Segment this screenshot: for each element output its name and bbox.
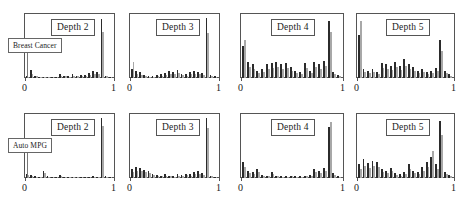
- bar: [285, 63, 287, 78]
- bar: [77, 177, 79, 178]
- bar: [206, 118, 208, 178]
- bar: [325, 66, 327, 78]
- bar: [201, 73, 203, 78]
- bar: [86, 177, 88, 178]
- bar: [430, 157, 432, 178]
- bar: [369, 168, 371, 178]
- bar: [367, 71, 369, 78]
- bar: [360, 21, 362, 78]
- bar: [394, 62, 396, 78]
- bar: [247, 62, 249, 78]
- depth-label-box: Depth 4: [271, 19, 315, 36]
- bar: [65, 76, 67, 78]
- bar: [90, 75, 92, 78]
- bar: [94, 177, 96, 178]
- bar: [59, 74, 61, 78]
- bar: [149, 173, 151, 178]
- bar: [32, 176, 34, 178]
- bar: [387, 69, 389, 78]
- bar: [437, 71, 439, 78]
- bar: [363, 69, 365, 78]
- bar: [36, 76, 38, 78]
- bar: [339, 76, 341, 78]
- bar: [382, 68, 384, 78]
- bar: [32, 74, 34, 78]
- bar: [405, 66, 407, 78]
- x-tick-label: 0: [354, 83, 359, 93]
- bar: [174, 177, 176, 178]
- x-tick-mark: [357, 78, 358, 81]
- bar: [360, 169, 362, 178]
- bar: [332, 72, 334, 78]
- bar: [410, 169, 412, 178]
- bar: [166, 75, 168, 78]
- bar: [110, 177, 112, 178]
- bar: [133, 172, 135, 178]
- bar: [277, 176, 279, 178]
- bar: [157, 176, 159, 178]
- bar: [177, 70, 179, 78]
- bar: [385, 64, 387, 78]
- bar: [135, 71, 137, 78]
- x-tick-mark: [357, 178, 358, 181]
- bar: [282, 69, 284, 78]
- bar: [160, 176, 162, 178]
- bar: [271, 172, 273, 178]
- bar: [364, 72, 366, 78]
- bar: [247, 171, 249, 178]
- bar: [36, 177, 38, 178]
- bar: [378, 167, 380, 178]
- bar: [290, 176, 292, 178]
- figure-panel-grid: Depth 201Depth 301Depth 401Depth 501Dept…: [0, 0, 466, 197]
- bar: [131, 69, 133, 78]
- bar: [373, 72, 375, 78]
- bar: [105, 176, 107, 178]
- histogram-panel-depth-5-row0: Depth 5: [356, 13, 455, 78]
- bar: [137, 74, 139, 78]
- bar: [334, 74, 336, 78]
- bar: [275, 62, 277, 78]
- bar: [275, 176, 277, 178]
- histogram-panel-depth-3-row1: Depth 3: [129, 113, 220, 178]
- x-tick-mark: [219, 178, 220, 181]
- depth-label-box: Depth 3: [156, 19, 200, 36]
- bar: [272, 68, 274, 78]
- bar: [63, 177, 65, 178]
- bar: [153, 77, 155, 78]
- bar: [444, 172, 446, 178]
- bar: [419, 174, 421, 178]
- bar: [193, 71, 195, 78]
- bar: [320, 69, 322, 78]
- bar: [34, 176, 36, 178]
- bar: [417, 172, 419, 178]
- bar: [141, 171, 143, 178]
- bar: [290, 67, 292, 78]
- bar: [412, 67, 414, 78]
- x-tick-mark: [25, 178, 26, 181]
- bar: [174, 74, 176, 78]
- x-tick-mark: [343, 178, 344, 181]
- bar: [337, 75, 339, 78]
- bar: [149, 77, 151, 78]
- bar: [385, 171, 387, 178]
- bar: [38, 77, 40, 78]
- bar: [364, 166, 366, 178]
- bar: [399, 174, 401, 178]
- bar: [430, 71, 432, 78]
- bar: [191, 74, 193, 78]
- bar: [141, 75, 143, 78]
- bar: [363, 159, 365, 178]
- bar: [306, 68, 308, 78]
- bar: [285, 176, 287, 178]
- bar: [98, 177, 100, 178]
- bar: [94, 74, 96, 78]
- histogram-panel-depth-4-row1: Depth 4: [240, 113, 344, 178]
- bar: [143, 75, 145, 78]
- bar: [195, 74, 197, 78]
- bar: [266, 176, 268, 178]
- bar: [211, 76, 213, 78]
- bar: [105, 76, 107, 78]
- bar: [309, 71, 311, 78]
- bar: [84, 177, 86, 178]
- row-dataset-label-1: Auto MPG: [8, 138, 52, 153]
